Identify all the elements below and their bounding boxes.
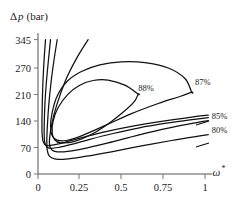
chart-svg: Δp(bar) 0 70 140 210 270 345 bbox=[0, 0, 246, 201]
y-tick-label-210: 210 bbox=[15, 90, 31, 101]
label-leader-lines bbox=[196, 121, 209, 147]
efficiency-contour-chart: Δp(bar) 0 70 140 210 270 345 bbox=[0, 0, 246, 201]
y-tick-label-345: 345 bbox=[15, 35, 31, 46]
y-axis-title-unit: (bar) bbox=[27, 10, 49, 23]
x-tick-label-1: 1 bbox=[202, 182, 207, 193]
x-axis-ticks bbox=[38, 174, 205, 179]
y-tick-label-270: 270 bbox=[15, 63, 31, 74]
x-tick-label-0.25: 0.25 bbox=[70, 182, 88, 193]
label-87: 87% bbox=[195, 77, 211, 87]
y-axis-title: Δp(bar) bbox=[10, 10, 48, 23]
contour-inner-open-curve-2 bbox=[42, 40, 208, 146]
x-axis-tick-labels: 0 0.25 0.5 0.75 1 bbox=[35, 182, 207, 193]
label-80: 80% bbox=[212, 125, 228, 135]
contour-88% bbox=[52, 80, 139, 143]
x-axis-title-superscript: * bbox=[221, 164, 225, 173]
contour-80% bbox=[47, 40, 209, 160]
contour-group bbox=[42, 40, 208, 160]
y-axis-tick-labels: 0 70 140 210 270 345 bbox=[15, 35, 31, 180]
y-axis-title-delta: Δ bbox=[10, 10, 17, 22]
y-tick-label-140: 140 bbox=[15, 116, 31, 127]
y-tick-label-0: 0 bbox=[26, 169, 31, 180]
x-tick-label-0.75: 0.75 bbox=[154, 182, 172, 193]
x-tick-label-0: 0 bbox=[35, 182, 40, 193]
contour-85% bbox=[49, 40, 208, 152]
y-axis-ticks bbox=[34, 40, 38, 174]
x-axis-title-symbol: ω bbox=[213, 166, 221, 178]
x-tick-label-0.5: 0.5 bbox=[114, 182, 127, 193]
label-88: 88% bbox=[138, 83, 154, 93]
label-85: 85% bbox=[212, 111, 228, 121]
y-axis-title-p: p bbox=[17, 10, 24, 22]
y-tick-label-70: 70 bbox=[21, 143, 32, 154]
leader-line-80 bbox=[196, 143, 209, 147]
x-axis-title: ω* bbox=[213, 164, 226, 178]
